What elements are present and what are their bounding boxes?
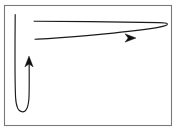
figure-container: Two elongated U-turn paths with arrowhea…: [0, 0, 177, 131]
line-drawing-canvas: [0, 0, 177, 131]
